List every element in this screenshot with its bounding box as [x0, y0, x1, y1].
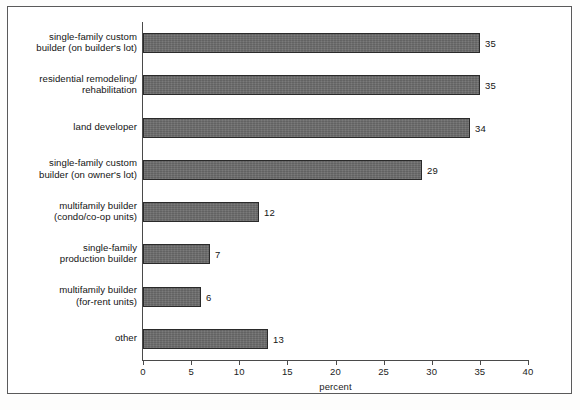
category-label: single-familyproduction builder: [0, 242, 137, 265]
category-label-line: other: [0, 332, 137, 344]
category-label: residential remodeling/rehabilitation: [0, 73, 137, 96]
x-tick-mark: [528, 361, 529, 365]
bar[interactable]: [143, 287, 201, 307]
category-label-line: multifamily builder: [0, 284, 137, 296]
category-label-line: rehabilitation: [0, 84, 137, 96]
category-label-line: (for-rent units): [0, 296, 137, 308]
bar[interactable]: [143, 118, 470, 138]
category-label: multifamily builder(for-rent units): [0, 284, 137, 307]
bar[interactable]: [143, 33, 480, 53]
bar-value-label: 34: [475, 123, 486, 134]
x-tick-mark: [384, 361, 385, 365]
category-label: land developer: [0, 121, 137, 133]
x-tick-mark: [143, 361, 144, 365]
bar-value-label: 7: [215, 249, 220, 260]
category-label: multifamily builder(condo/co-op units): [0, 200, 137, 223]
bar[interactable]: [143, 75, 480, 95]
bar[interactable]: [143, 329, 268, 349]
bar-value-label: 6: [206, 292, 211, 303]
category-label-line: builder (on builder's lot): [0, 42, 137, 54]
x-tick-label: 0: [140, 366, 145, 377]
category-label: single-family custombuilder (on owner's …: [0, 157, 137, 180]
x-tick-mark: [239, 361, 240, 365]
category-axis-line: [142, 22, 143, 361]
bar-value-label: 29: [427, 165, 438, 176]
bar-value-label: 12: [264, 207, 275, 218]
category-label-line: residential remodeling/: [0, 73, 137, 85]
x-axis-title: percent: [143, 381, 528, 392]
category-label-line: production builder: [0, 253, 137, 265]
category-label: other: [0, 332, 137, 344]
bar-value-label: 35: [485, 80, 496, 91]
bar-value-label: 35: [485, 38, 496, 49]
bar[interactable]: [143, 160, 422, 180]
figure-canvas: 0510152025303540 single-family custombui…: [0, 0, 580, 410]
x-tick-label: 15: [282, 366, 293, 377]
category-label-line: single-family custom: [0, 31, 137, 43]
x-tick-label: 35: [474, 366, 485, 377]
x-tick-mark: [432, 361, 433, 365]
x-tick-label: 10: [234, 366, 245, 377]
category-label-line: multifamily builder: [0, 200, 137, 212]
x-tick-mark: [191, 361, 192, 365]
category-label-line: land developer: [0, 121, 137, 133]
x-tick-label: 5: [188, 366, 193, 377]
bar-value-label: 13: [273, 334, 284, 345]
category-label-line: (condo/co-op units): [0, 211, 137, 223]
x-tick-label: 25: [378, 366, 389, 377]
category-label-line: builder (on owner's lot): [0, 169, 137, 181]
category-label: single-family custombuilder (on builder'…: [0, 31, 137, 54]
category-label-line: single-family custom: [0, 157, 137, 169]
category-label-line: single-family: [0, 242, 137, 254]
x-tick-label: 40: [523, 366, 534, 377]
x-tick-mark: [336, 361, 337, 365]
x-tick-label: 30: [426, 366, 437, 377]
x-tick-mark: [480, 361, 481, 365]
x-tick-mark: [287, 361, 288, 365]
bar[interactable]: [143, 244, 210, 264]
x-tick-label: 20: [330, 366, 341, 377]
bar[interactable]: [143, 202, 259, 222]
